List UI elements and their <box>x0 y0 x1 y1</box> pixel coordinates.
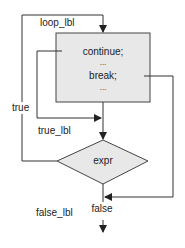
block-line-ellipsis-2: ... <box>100 84 107 92</box>
loop-label: loop_lbl <box>40 18 74 28</box>
true-label: true_lbl <box>38 126 71 136</box>
false-label: false_lbl <box>36 208 73 218</box>
true-edge-label: true <box>12 102 29 114</box>
block-line-break: break; <box>89 71 117 81</box>
block-line-continue: continue; <box>83 47 124 57</box>
false-edge-label: false <box>91 204 112 214</box>
block-line-ellipsis-1: ... <box>100 59 107 67</box>
condition-text: expr <box>93 156 112 166</box>
